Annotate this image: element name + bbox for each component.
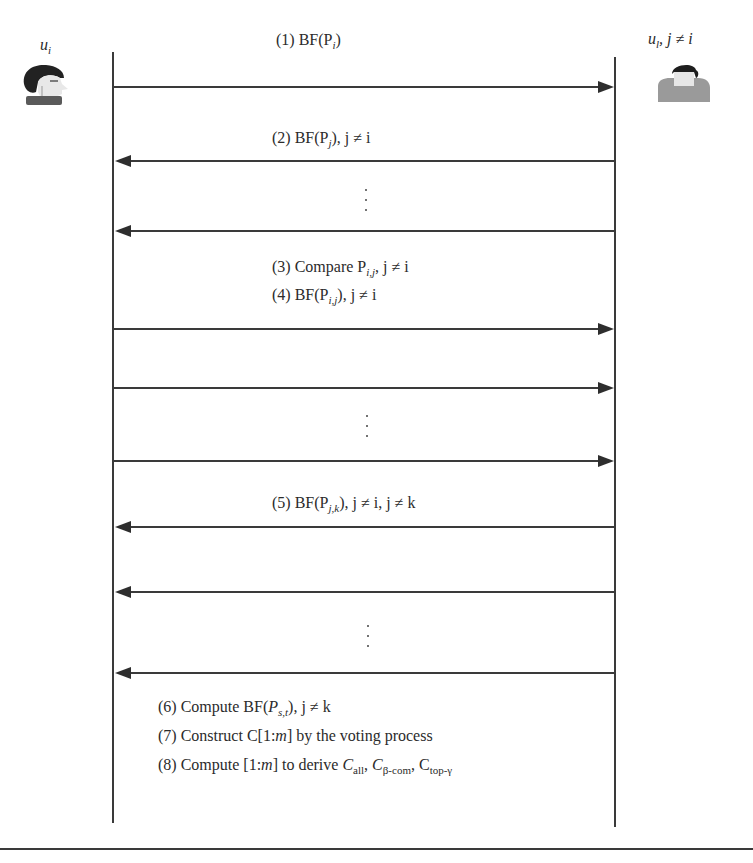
actor-right-name: u <box>648 30 656 47</box>
actor-left-subscript: i <box>48 44 51 56</box>
arrowhead-right-icon <box>598 455 614 467</box>
ellipsis-icon <box>365 415 369 445</box>
bottom-separator <box>0 848 753 850</box>
ellipsis-icon <box>364 189 368 219</box>
arrowhead-right-icon <box>598 382 614 394</box>
actor-left-name: u <box>40 36 48 53</box>
arrowhead-right-icon <box>598 81 614 93</box>
message-3-label: (3) Compare Pi,j, j ≠ i <box>272 257 409 277</box>
message-2b-arrow <box>130 230 614 232</box>
actor-right-condition: , j ≠ i <box>659 30 693 47</box>
message-4-arrow <box>114 328 600 330</box>
message-4-label: (4) BF(Pi,j), j ≠ i <box>272 285 376 305</box>
message-1-label: (1) BF(Pi) <box>276 30 341 50</box>
arrowhead-right-icon <box>598 323 614 335</box>
message-4b-arrow <box>114 387 600 389</box>
actor-right-label: ul, j ≠ i <box>648 30 693 48</box>
arrowhead-left-icon <box>115 155 131 167</box>
message-5c-arrow <box>130 672 614 674</box>
message-1-arrow <box>114 86 600 88</box>
step-7-label: (7) Construct C[1:m] by the voting proce… <box>158 726 433 746</box>
message-4c-arrow <box>114 460 600 462</box>
message-5b-arrow <box>130 591 614 593</box>
arrowhead-left-icon <box>115 586 131 598</box>
message-5-label: (5) BF(Pj,k), j ≠ i, j ≠ k <box>272 493 415 513</box>
step-6-label: (6) Compute BF(Ps,t), j ≠ k <box>158 697 331 717</box>
message-2-label: (2) BF(Pj), j ≠ i <box>272 128 371 148</box>
actor-left-label: ui <box>40 36 51 54</box>
message-2-arrow <box>130 160 614 162</box>
ellipsis-icon <box>366 625 370 655</box>
message-5-arrow <box>130 526 614 528</box>
person-back-view-icon <box>654 60 714 104</box>
arrowhead-left-icon <box>115 225 131 237</box>
person-head-side-profile-icon <box>20 62 72 106</box>
lifeline-right <box>614 57 616 827</box>
lifeline-left <box>112 52 114 823</box>
step-8-label: (8) Compute [1:m] to derive Call, Cβ-com… <box>158 755 452 775</box>
arrowhead-left-icon <box>115 521 131 533</box>
arrowhead-left-icon <box>115 667 131 679</box>
